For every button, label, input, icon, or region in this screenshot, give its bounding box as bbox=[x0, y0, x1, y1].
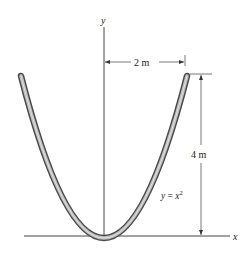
parabolic-rod-diagram: y x 2 m 4 m y = x2 bbox=[0, 0, 252, 254]
equation-equals: = bbox=[165, 191, 175, 201]
svg-text:y = x2: y = x2 bbox=[160, 189, 183, 201]
y-axis-label: y bbox=[100, 15, 106, 26]
x-axis-label: x bbox=[232, 231, 238, 242]
equation-label: y = x2 bbox=[160, 189, 183, 201]
diagram-svg: y x 2 m 4 m y = x2 bbox=[0, 0, 252, 254]
width-label: 2 m bbox=[134, 57, 150, 68]
equation-exponent: 2 bbox=[180, 189, 183, 196]
height-label: 4 m bbox=[191, 149, 207, 160]
